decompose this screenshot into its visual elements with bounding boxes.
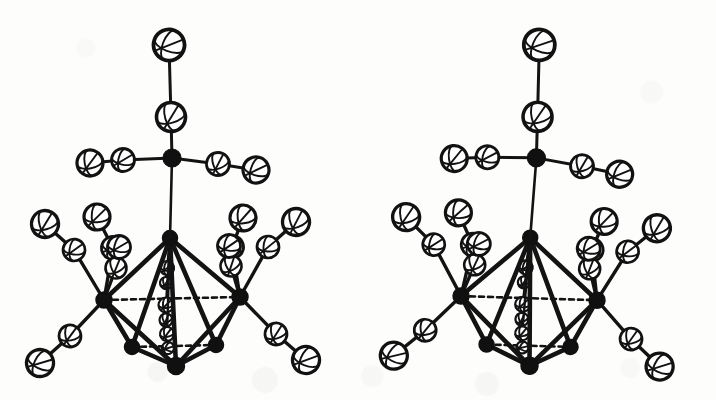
CO-left-up-inner-oxygen <box>445 200 471 226</box>
CO-left-up-inner-oxygen <box>84 204 111 231</box>
apical-stem <box>170 158 172 238</box>
apex-chain-up-atom-1 <box>149 25 189 65</box>
apex-chain-left-atom-0 <box>109 146 136 173</box>
CO-right-up-inner-oxygen <box>229 204 258 233</box>
M-right <box>589 292 606 309</box>
apex-chain-up-atom-0 <box>520 99 555 134</box>
core-edge-8 <box>530 297 598 369</box>
left-stereo-view <box>22 25 324 381</box>
M-front-left <box>479 337 495 353</box>
M-left <box>96 292 112 308</box>
apex-chain-left-atom-1 <box>440 144 469 173</box>
CO-right-vertical-oxygen <box>216 233 242 259</box>
apex-chain-right-atom-0 <box>203 149 232 178</box>
apex-chain-left-atom-1 <box>75 148 105 178</box>
apex-chain-right-atom-1 <box>603 158 636 191</box>
apical-stem <box>530 158 536 238</box>
CO-left-down-outer-carbon <box>413 318 438 343</box>
apical-hub-atom <box>163 149 181 167</box>
CO-right-up-outer-oxygen <box>640 211 674 245</box>
right-stereo-view <box>375 17 695 388</box>
apex-chain-left-atom-0 <box>473 143 501 171</box>
apex-chain-right-atom-1 <box>240 154 272 186</box>
M-front-left <box>125 340 140 355</box>
apex-chain-up-atom-0 <box>153 99 189 135</box>
M-right <box>232 289 248 305</box>
M-front-right <box>563 339 579 355</box>
apex-chain-up-atom-1 <box>519 24 560 65</box>
M-front-right <box>209 338 224 353</box>
CO-left-down-outer-oxygen <box>375 337 412 374</box>
CO-left-up-outer-carbon <box>62 238 87 263</box>
apex-chain-right-atom-0 <box>568 152 597 181</box>
CO-right-up-inner-oxygen <box>590 208 617 235</box>
apical-hub-atom <box>527 148 546 167</box>
core-edge-8 <box>176 297 240 366</box>
CO-right-up-outer-carbon <box>616 240 640 264</box>
ortep-canvas <box>0 0 716 400</box>
M-apex-bottom <box>521 357 539 375</box>
ortep-stereo-figure <box>0 0 716 400</box>
M-apex-bottom <box>168 358 185 375</box>
CO-right-up-outer-carbon <box>256 235 279 258</box>
M-left <box>453 288 470 305</box>
